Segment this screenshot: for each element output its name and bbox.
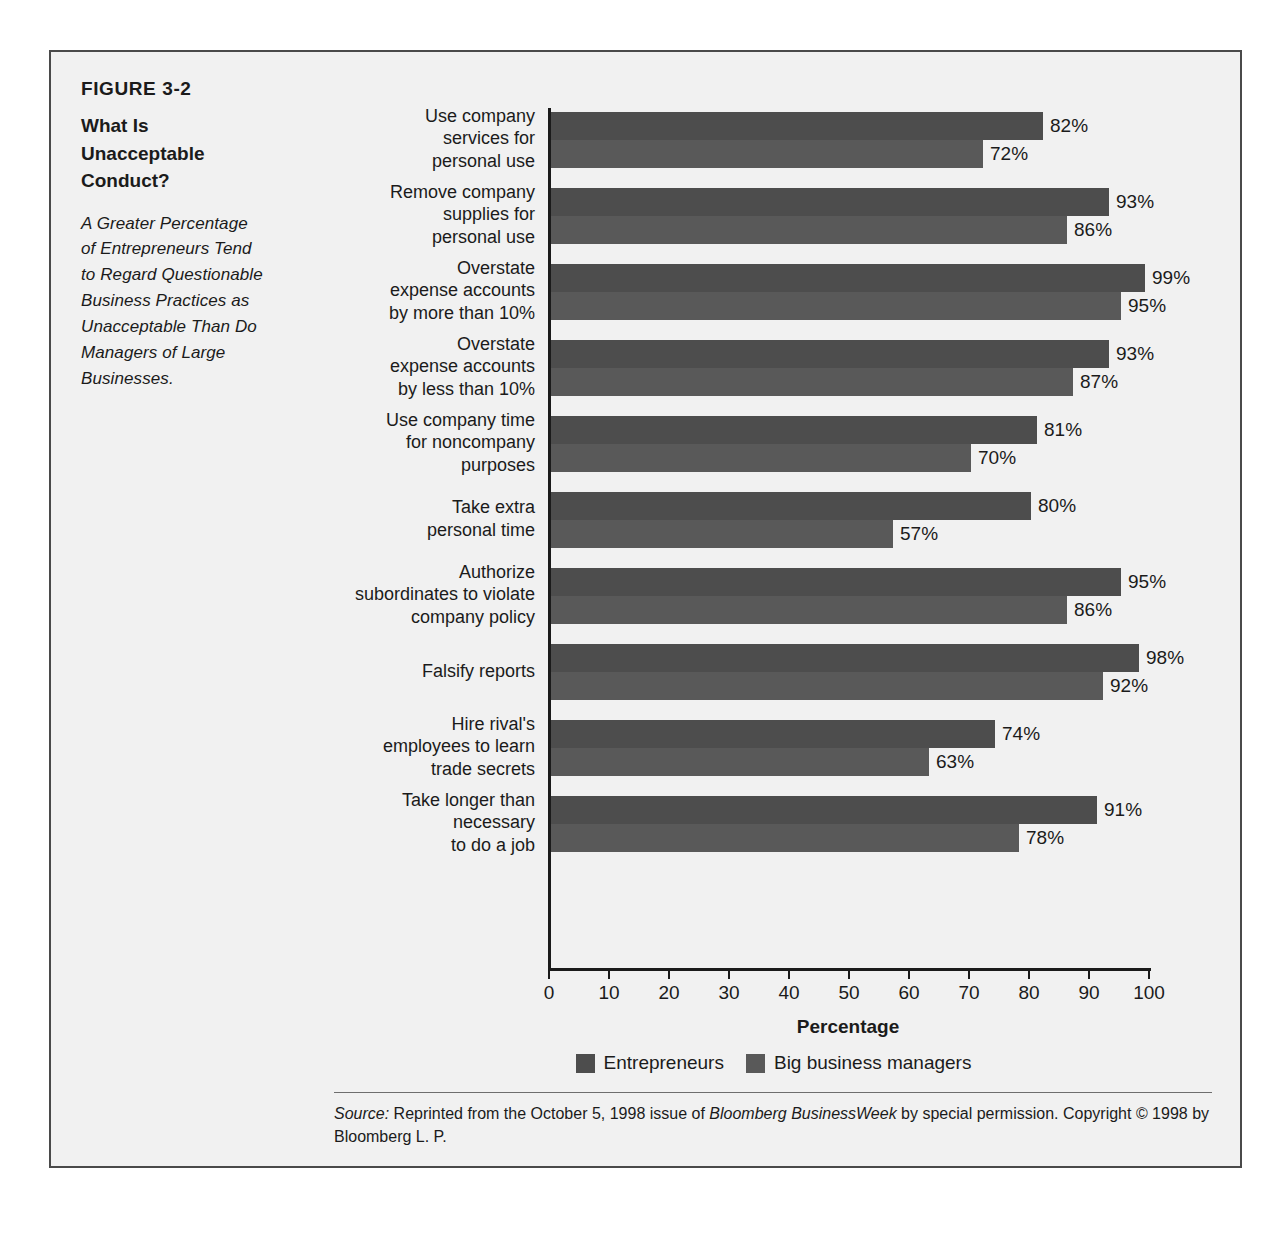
bar-row: 99% [551, 264, 1216, 292]
bar-value-label: 78% [1019, 827, 1064, 849]
x-tick-label: 20 [658, 982, 679, 1004]
x-tick [848, 968, 850, 979]
x-tick [728, 968, 730, 979]
bar-row: 81% [551, 416, 1216, 444]
bar-value-label: 86% [1067, 599, 1112, 621]
bar-category-label: Use company timefor noncompanypurposes [205, 409, 535, 478]
bar-category-label-line-2: by less than 10% [205, 378, 535, 401]
source-label: Source: [334, 1105, 389, 1122]
bar-group: Use company timefor noncompanypurposes81… [331, 416, 1216, 472]
bar-value-label: 99% [1145, 267, 1190, 289]
bar-value-label: 92% [1103, 675, 1148, 697]
bar-category-label-line-1: expense accounts [205, 355, 535, 378]
bar-big-business-managers [551, 748, 929, 776]
x-axis-title: Percentage [548, 1016, 1148, 1038]
bar-value-label: 80% [1031, 495, 1076, 517]
legend-item-entrepreneurs[interactable]: Entrepreneurs [576, 1052, 724, 1074]
x-tick [788, 968, 790, 979]
bar-value-label: 63% [929, 751, 974, 773]
bar-category-label-line-0: Use company time [205, 409, 535, 432]
source-note: Source: Reprinted from the October 5, 19… [334, 1102, 1212, 1148]
bar-value-label: 87% [1073, 371, 1118, 393]
bar-row: 80% [551, 492, 1216, 520]
bar-entrepreneurs [551, 416, 1037, 444]
bar-big-business-managers [551, 368, 1073, 396]
x-tick [548, 968, 550, 979]
x-tick-label: 80 [1018, 982, 1039, 1004]
x-tick-label: 60 [898, 982, 919, 1004]
bar-group: Take extrapersonal time80%57% [331, 492, 1216, 548]
bar-entrepreneurs [551, 264, 1145, 292]
bar-category-label-line-0: Overstate [205, 333, 535, 356]
bar-big-business-managers [551, 824, 1019, 852]
bar-category-label-line-1: services for [205, 127, 535, 150]
bar-category-label-line-0: Take extra [205, 496, 535, 519]
bar-category-label: Falsify reports [205, 660, 535, 683]
bar-value-label: 82% [1043, 115, 1088, 137]
bar-category-label-line-2: company policy [205, 606, 535, 629]
bar-category-label-line-1: subordinates to violate [205, 583, 535, 606]
x-tick-label: 50 [838, 982, 859, 1004]
legend-label: Entrepreneurs [604, 1052, 724, 1074]
bar-big-business-managers [551, 216, 1067, 244]
source-divider [334, 1092, 1212, 1093]
bar-entrepreneurs [551, 492, 1031, 520]
bar-category-label-line-1: employees to learn [205, 735, 535, 758]
chart-legend: EntrepreneursBig business managers [331, 1052, 1216, 1074]
x-tick [1088, 968, 1090, 979]
bar-category-label-line-1: for noncompany [205, 431, 535, 454]
bar-category-label-line-0: Remove company [205, 181, 535, 204]
x-tick-label: 100 [1133, 982, 1165, 1004]
bar-big-business-managers [551, 444, 971, 472]
bar-value-label: 70% [971, 447, 1016, 469]
bar-category-label: Authorizesubordinates to violatecompany … [205, 561, 535, 630]
bar-entrepreneurs [551, 644, 1139, 672]
x-tick-label: 30 [718, 982, 739, 1004]
bar-category-label: Take longer thannecessaryto do a job [205, 789, 535, 858]
chart-plot-area: Use companyservices forpersonal use82%72… [331, 72, 1216, 1002]
bar-row: 87% [551, 368, 1216, 396]
x-tick-label: 10 [598, 982, 619, 1004]
bar-category-label-line-2: by more than 10% [205, 302, 535, 325]
bar-category-label-line-2: to do a job [205, 834, 535, 857]
bar-group: Overstateexpense accountsby more than 10… [331, 264, 1216, 320]
bar-category-label-line-0: Take longer than [205, 789, 535, 812]
x-tick [908, 968, 910, 979]
legend-item-big-business-managers[interactable]: Big business managers [746, 1052, 972, 1074]
bar-row: 63% [551, 748, 1216, 776]
figure-number: FIGURE 3-2 [81, 78, 326, 100]
bar-value-label: 81% [1037, 419, 1082, 441]
bar-category-label: Remove companysupplies forpersonal use [205, 181, 535, 250]
bar-row: 93% [551, 340, 1216, 368]
bar-row: 86% [551, 216, 1216, 244]
bar-category-label-line-2: personal use [205, 150, 535, 173]
bar-value-label: 95% [1121, 295, 1166, 317]
bar-value-label: 74% [995, 723, 1040, 745]
bar-row: 70% [551, 444, 1216, 472]
bar-row: 57% [551, 520, 1216, 548]
bar-row: 98% [551, 644, 1216, 672]
legend-swatch-icon [746, 1054, 765, 1073]
bar-value-label: 93% [1109, 343, 1154, 365]
bar-group: Remove companysupplies forpersonal use93… [331, 188, 1216, 244]
bar-category-label: Use companyservices forpersonal use [205, 105, 535, 174]
bar-entrepreneurs [551, 112, 1043, 140]
bar-category-label-line-2: trade secrets [205, 758, 535, 781]
bar-row: 74% [551, 720, 1216, 748]
bar-group: Overstateexpense accountsby less than 10… [331, 340, 1216, 396]
bar-category-label: Hire rival'semployees to learntrade secr… [205, 713, 535, 782]
bar-group: Take longer thannecessaryto do a job91%7… [331, 796, 1216, 852]
x-tick [968, 968, 970, 979]
bar-category-label-line-2: purposes [205, 454, 535, 477]
x-tick [1148, 968, 1150, 979]
bar-row: 82% [551, 112, 1216, 140]
x-tick-label: 40 [778, 982, 799, 1004]
bar-row: 95% [551, 292, 1216, 320]
bar-category-label-line-1: expense accounts [205, 279, 535, 302]
bar-category-label-line-0: Hire rival's [205, 713, 535, 736]
x-tick [668, 968, 670, 979]
bar-entrepreneurs [551, 796, 1097, 824]
x-tick [608, 968, 610, 979]
bar-big-business-managers [551, 292, 1121, 320]
bar-category-label-line-1: supplies for [205, 203, 535, 226]
